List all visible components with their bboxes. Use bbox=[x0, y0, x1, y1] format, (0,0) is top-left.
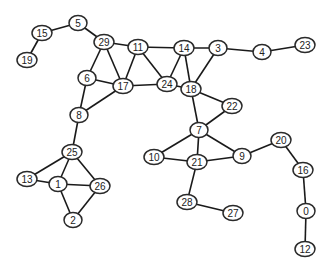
node-2: 2 bbox=[64, 213, 82, 228]
node-label: 1 bbox=[55, 179, 61, 190]
graph-canvas: 0123456789101112131415161718192021222324… bbox=[0, 0, 332, 271]
node-21: 21 bbox=[187, 155, 207, 170]
node-label: 11 bbox=[133, 42, 144, 53]
node-10: 10 bbox=[144, 150, 164, 165]
node-label: 15 bbox=[36, 28, 48, 39]
node-23: 23 bbox=[295, 38, 315, 53]
node-label: 3 bbox=[215, 43, 221, 54]
node-label: 0 bbox=[303, 206, 309, 217]
node-18: 18 bbox=[181, 82, 201, 97]
node-label: 27 bbox=[227, 208, 239, 219]
node-label: 12 bbox=[299, 244, 311, 255]
node-20: 20 bbox=[271, 133, 291, 148]
node-label: 19 bbox=[21, 55, 33, 66]
node-label: 16 bbox=[297, 165, 309, 176]
node-6: 6 bbox=[78, 71, 96, 86]
nodes-layer: 0123456789101112131415161718192021222324… bbox=[17, 16, 315, 257]
node-29: 29 bbox=[94, 35, 114, 50]
node-4: 4 bbox=[253, 45, 271, 60]
node-17: 17 bbox=[113, 79, 133, 94]
node-26: 26 bbox=[90, 179, 110, 194]
node-label: 21 bbox=[191, 157, 203, 168]
node-19: 19 bbox=[17, 53, 37, 68]
node-label: 23 bbox=[299, 40, 311, 51]
node-label: 17 bbox=[117, 81, 129, 92]
node-label: 29 bbox=[98, 37, 110, 48]
node-22: 22 bbox=[222, 99, 242, 114]
node-label: 4 bbox=[259, 47, 265, 58]
node-label: 22 bbox=[226, 101, 238, 112]
node-3: 3 bbox=[209, 41, 227, 56]
node-8: 8 bbox=[70, 108, 88, 123]
node-9: 9 bbox=[233, 149, 251, 164]
node-label: 2 bbox=[70, 215, 76, 226]
node-28: 28 bbox=[177, 195, 197, 210]
node-14: 14 bbox=[174, 41, 194, 56]
node-label: 14 bbox=[178, 43, 190, 54]
node-label: 8 bbox=[76, 110, 82, 121]
node-13: 13 bbox=[17, 172, 37, 187]
node-16: 16 bbox=[293, 163, 313, 178]
node-label: 26 bbox=[94, 181, 106, 192]
node-0: 0 bbox=[297, 204, 315, 219]
node-7: 7 bbox=[190, 123, 208, 138]
node-1: 1 bbox=[49, 177, 67, 192]
node-27: 27 bbox=[223, 206, 243, 221]
node-label: 9 bbox=[239, 151, 245, 162]
node-label: 18 bbox=[185, 84, 197, 95]
node-label: 7 bbox=[196, 125, 202, 136]
node-label: 28 bbox=[181, 197, 193, 208]
node-label: 25 bbox=[66, 147, 78, 158]
node-label: 13 bbox=[21, 174, 33, 185]
node-label: 6 bbox=[84, 73, 90, 84]
node-label: 5 bbox=[75, 18, 81, 29]
node-15: 15 bbox=[32, 26, 52, 41]
node-11: 11 bbox=[128, 40, 148, 55]
node-5: 5 bbox=[69, 16, 87, 31]
node-label: 10 bbox=[148, 152, 160, 163]
node-25: 25 bbox=[62, 145, 82, 160]
node-12: 12 bbox=[295, 242, 315, 257]
node-label: 20 bbox=[275, 135, 287, 146]
node-24: 24 bbox=[157, 77, 177, 92]
node-label: 24 bbox=[161, 79, 173, 90]
